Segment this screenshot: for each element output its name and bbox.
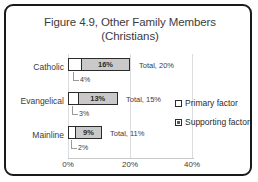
chart-title-line2: (Christians) [20,29,240,43]
total-label-evangelical: Total, 15% [126,95,161,104]
bar-segment-primary-catholic [69,59,81,70]
x-tick-20: 20% [122,160,138,169]
chart-title-line1: Figure 4.9, Other Family Members [44,16,216,28]
bar-segment-supporting-mainline: 9% [75,127,101,138]
legend-item-primary-factor[interactable]: Primary factor [175,98,250,108]
total-label-mainline: Total, 11% [110,129,144,138]
bar-segment-supporting-catholic: 16% [81,59,129,70]
x-axis-line [68,158,194,159]
bar-value-primary-evangelical: 3% [79,110,89,117]
category-label-evangelical: Evangelical [10,96,64,106]
leader-line-evangelical-h [72,114,78,115]
leader-line-catholic-h [73,80,79,81]
stacked-bar-catholic[interactable]: 16% [68,58,130,71]
total-label-catholic: Total, 20% [139,61,174,70]
bar-value-supporting-evangelical: 13% [90,95,105,103]
chart-legend: Primary factor Supporting factor [175,98,250,136]
category-label-mainline: Mainline [10,130,64,140]
legend-swatch-supporting-icon [175,119,182,126]
bar-value-supporting-mainline: 9% [83,129,94,137]
bar-row-catholic: Catholic 16% Total, 20% 4% [6,56,250,86]
chart-title: Figure 4.9, Other Family Members (Christ… [20,15,240,43]
x-tick-0: 0% [62,160,74,169]
legend-label-primary: Primary factor [185,98,238,108]
legend-item-supporting-factor[interactable]: Supporting factor [175,117,250,127]
legend-swatch-primary-icon [175,100,182,107]
leader-line-mainline-h [71,148,77,149]
stacked-bar-evangelical[interactable]: 13% [68,92,118,105]
bar-value-primary-mainline: 2% [78,144,88,151]
bar-value-primary-catholic: 4% [80,76,90,83]
legend-label-supporting: Supporting factor [185,117,250,127]
stacked-bar-mainline[interactable]: 9% [68,126,102,139]
bar-segment-supporting-evangelical: 13% [78,93,117,104]
chart-frame: Figure 4.9, Other Family Members (Christ… [4,4,252,176]
bar-value-supporting-catholic: 16% [98,61,113,69]
x-tick-40: 40% [184,160,200,169]
category-label-catholic: Catholic [10,62,64,72]
bar-segment-primary-evangelical [69,93,78,104]
